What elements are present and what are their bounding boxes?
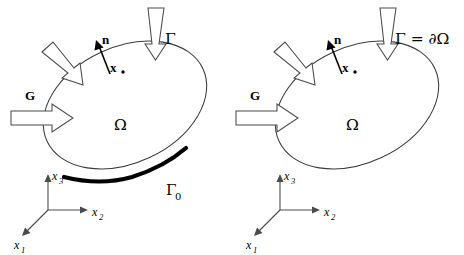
coordinate-axes-triad	[254, 174, 320, 236]
label-point-x: x	[342, 60, 349, 75]
label-axis-x3-subscript: 3	[58, 176, 63, 186]
axis-x1-line	[259, 210, 280, 231]
axis-x3-arrowhead	[45, 174, 52, 182]
axis-x2-arrowhead	[312, 207, 320, 214]
upper-left-load-arrow-icon	[274, 42, 315, 85]
label-domain-omega: Ω	[114, 116, 127, 134]
right-diagram-panel: Γ = ∂Ω Ω x n G x 3 x 2 x 1	[232, 0, 464, 255]
label-axis-x2-subscript: 2	[331, 212, 336, 222]
left-load-arrow-icon-G	[11, 104, 73, 132]
label-load-G: G	[250, 88, 260, 103]
left-diagram-panel: Γ Γ 0 Ω x n G x 3 x 2 x 1	[0, 0, 232, 255]
label-normal-n: n	[334, 32, 342, 47]
label-axis-x1-subscript: 1	[253, 245, 257, 255]
gamma0-boundary-segment	[64, 148, 186, 182]
coordinate-axes-triad	[22, 174, 88, 236]
label-axis-x1-base: x	[245, 238, 252, 252]
upper-left-load-arrow-icon	[42, 42, 83, 85]
label-axis-x3-subscript: 3	[290, 176, 295, 186]
axis-x3-arrowhead	[277, 174, 284, 182]
label-load-G: G	[25, 88, 35, 103]
left-load-arrow-icon-G	[236, 104, 298, 132]
label-axis-x3-base: x	[283, 169, 290, 183]
label-axis-x1-base: x	[13, 238, 20, 252]
label-gamma0-subscript: 0	[175, 191, 181, 202]
label-axis-x1-subscript: 1	[21, 245, 25, 255]
axis-x1-line	[27, 210, 48, 231]
label-boundary-gamma-eq-partial-omega: Γ = ∂Ω	[395, 30, 449, 48]
label-axis-x2-base: x	[91, 205, 98, 219]
top-load-arrow-icon	[145, 8, 166, 60]
label-boundary-gamma: Γ	[165, 30, 176, 48]
label-axis-x3-base: x	[51, 169, 58, 183]
figure-root: Γ Γ 0 Ω x n G x 3 x 2 x 1	[0, 0, 464, 255]
point-x-marker	[121, 70, 124, 73]
label-normal-n: n	[102, 32, 110, 47]
label-axis-x2-base: x	[323, 205, 330, 219]
label-domain-omega: Ω	[346, 116, 359, 134]
label-axis-x2-subscript: 2	[99, 212, 104, 222]
axis-x2-arrowhead	[80, 207, 88, 214]
point-x-marker	[353, 70, 356, 73]
label-point-x: x	[110, 60, 117, 75]
